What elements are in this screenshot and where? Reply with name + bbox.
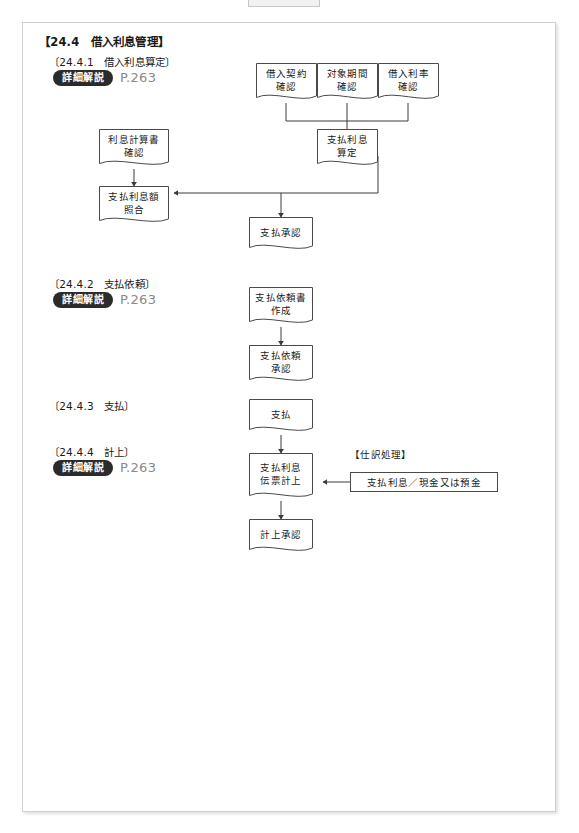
subsection-heading-24-4-2: 〔24.4.2 支払依頼〕 — [49, 276, 155, 291]
flow-node-payment-request-approval[interactable]: 支払依頼 承認 — [249, 345, 313, 385]
detail-badge-icon: 詳細解説 — [53, 70, 113, 86]
document-shape-icon — [317, 63, 378, 103]
subsection-heading-24-4-4: 〔24.4.4 計上〕 — [49, 444, 135, 459]
flow-node-interest-rate-check[interactable]: 借入利率 確認 — [378, 63, 439, 103]
journal-entry-box[interactable]: 支払利息／現金又は預金 — [350, 472, 498, 492]
flow-node-interest-amount-reconciliation[interactable]: 支払利息額 照合 — [99, 186, 169, 226]
reference-page-number: P.263 — [120, 70, 156, 85]
reference-link-24-4-1[interactable]: 詳細解説 P.263 — [53, 70, 156, 86]
document-shape-icon — [256, 63, 317, 103]
document-shape-icon — [249, 519, 313, 555]
detail-badge-icon: 詳細解説 — [53, 460, 113, 476]
subsection-heading-24-4-3: 〔24.4.3 支払〕 — [49, 398, 135, 413]
page-sheet: 【24.4 借入利息管理】 〔24.4.1 借入利息算定〕 詳細解説 P.263… — [22, 22, 556, 812]
flow-node-interest-statement-check[interactable]: 利息計算書 確認 — [99, 129, 169, 169]
flow-node-entry-approval[interactable]: 計上承認 — [249, 519, 313, 555]
reference-link-24-4-2[interactable]: 詳細解説 P.263 — [53, 292, 156, 308]
flow-node-target-period-check[interactable]: 対象期間 確認 — [317, 63, 378, 103]
document-shape-icon — [99, 186, 169, 226]
journal-processing-label: 【仕訳処理】 — [350, 447, 412, 461]
flow-node-loan-contract-check[interactable]: 借入契約 確認 — [256, 63, 317, 103]
reference-page-number: P.263 — [120, 460, 156, 475]
subsection-heading-24-4-1: 〔24.4.1 借入利息算定〕 — [49, 54, 175, 69]
flow-node-payment[interactable]: 支払 — [249, 399, 313, 435]
document-shape-icon — [317, 129, 378, 169]
flow-node-interest-voucher-entry[interactable]: 支払利息 伝票計上 — [249, 453, 313, 501]
top-cropped-toolbar-strip — [248, 0, 320, 7]
document-shape-icon — [249, 345, 313, 385]
reference-link-24-4-4[interactable]: 詳細解説 P.263 — [53, 460, 156, 476]
document-shape-icon — [99, 129, 169, 169]
document-shape-icon — [249, 399, 313, 435]
flow-node-payment-request-creation[interactable]: 支払依頼書 作成 — [249, 287, 313, 327]
document-shape-icon — [378, 63, 439, 103]
reference-page-number: P.263 — [120, 292, 156, 307]
flow-node-interest-calculation[interactable]: 支払利息 算定 — [317, 129, 378, 169]
flow-node-payment-approval[interactable]: 支払承認 — [249, 217, 313, 253]
document-shape-icon — [249, 287, 313, 327]
document-shape-icon — [249, 453, 313, 501]
page-title: 【24.4 借入利息管理】 — [39, 33, 169, 49]
document-shape-icon — [249, 217, 313, 253]
detail-badge-icon: 詳細解説 — [53, 292, 113, 308]
